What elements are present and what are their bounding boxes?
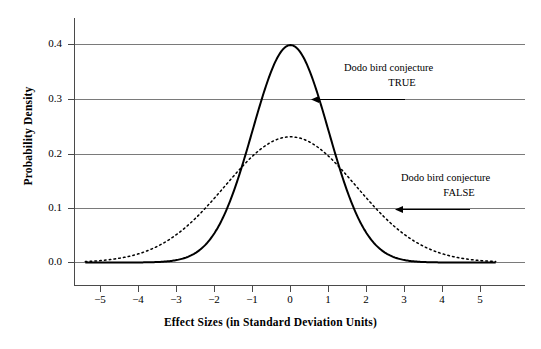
true-annotation-line1: Dodo bird conjecture (344, 62, 433, 73)
true-annotation-line2: TRUE (344, 77, 460, 88)
x-tick-label--4: −4 (123, 293, 153, 305)
x-tick-label-5: 5 (465, 293, 495, 305)
chart-figure: 0.4 0.3 0.2 0.1 0.0 −5 −4 −3 −2 −1 0 1 2… (0, 0, 541, 349)
x-tick-label-4: 4 (427, 293, 457, 305)
false-annotation-line2: FALSE (401, 187, 517, 198)
false-annotation-line1: Dodo bird conjecture (401, 172, 490, 183)
x-axis-title: Effect Sizes (in Standard Deviation Unit… (0, 316, 541, 328)
x-tick-label--1: −1 (237, 293, 267, 305)
y-tick-label-0.1: 0.1 (32, 201, 62, 213)
y-tick-label-0.4: 0.4 (32, 37, 62, 49)
x-tick-label--3: −3 (161, 293, 191, 305)
x-tick-label-3: 3 (389, 293, 419, 305)
y-tick-label-0.2: 0.2 (32, 147, 62, 159)
x-tick-label-1: 1 (313, 293, 343, 305)
x-tick-label-2: 2 (351, 293, 381, 305)
y-axis-title: Probability Density (22, 56, 34, 216)
y-tick-label-0.0: 0.0 (32, 255, 62, 267)
x-tick-label--2: −2 (199, 293, 229, 305)
x-tick-label--5: −5 (85, 293, 115, 305)
x-tick-label-0: 0 (275, 293, 305, 305)
y-tick-label-0.3: 0.3 (32, 92, 62, 104)
